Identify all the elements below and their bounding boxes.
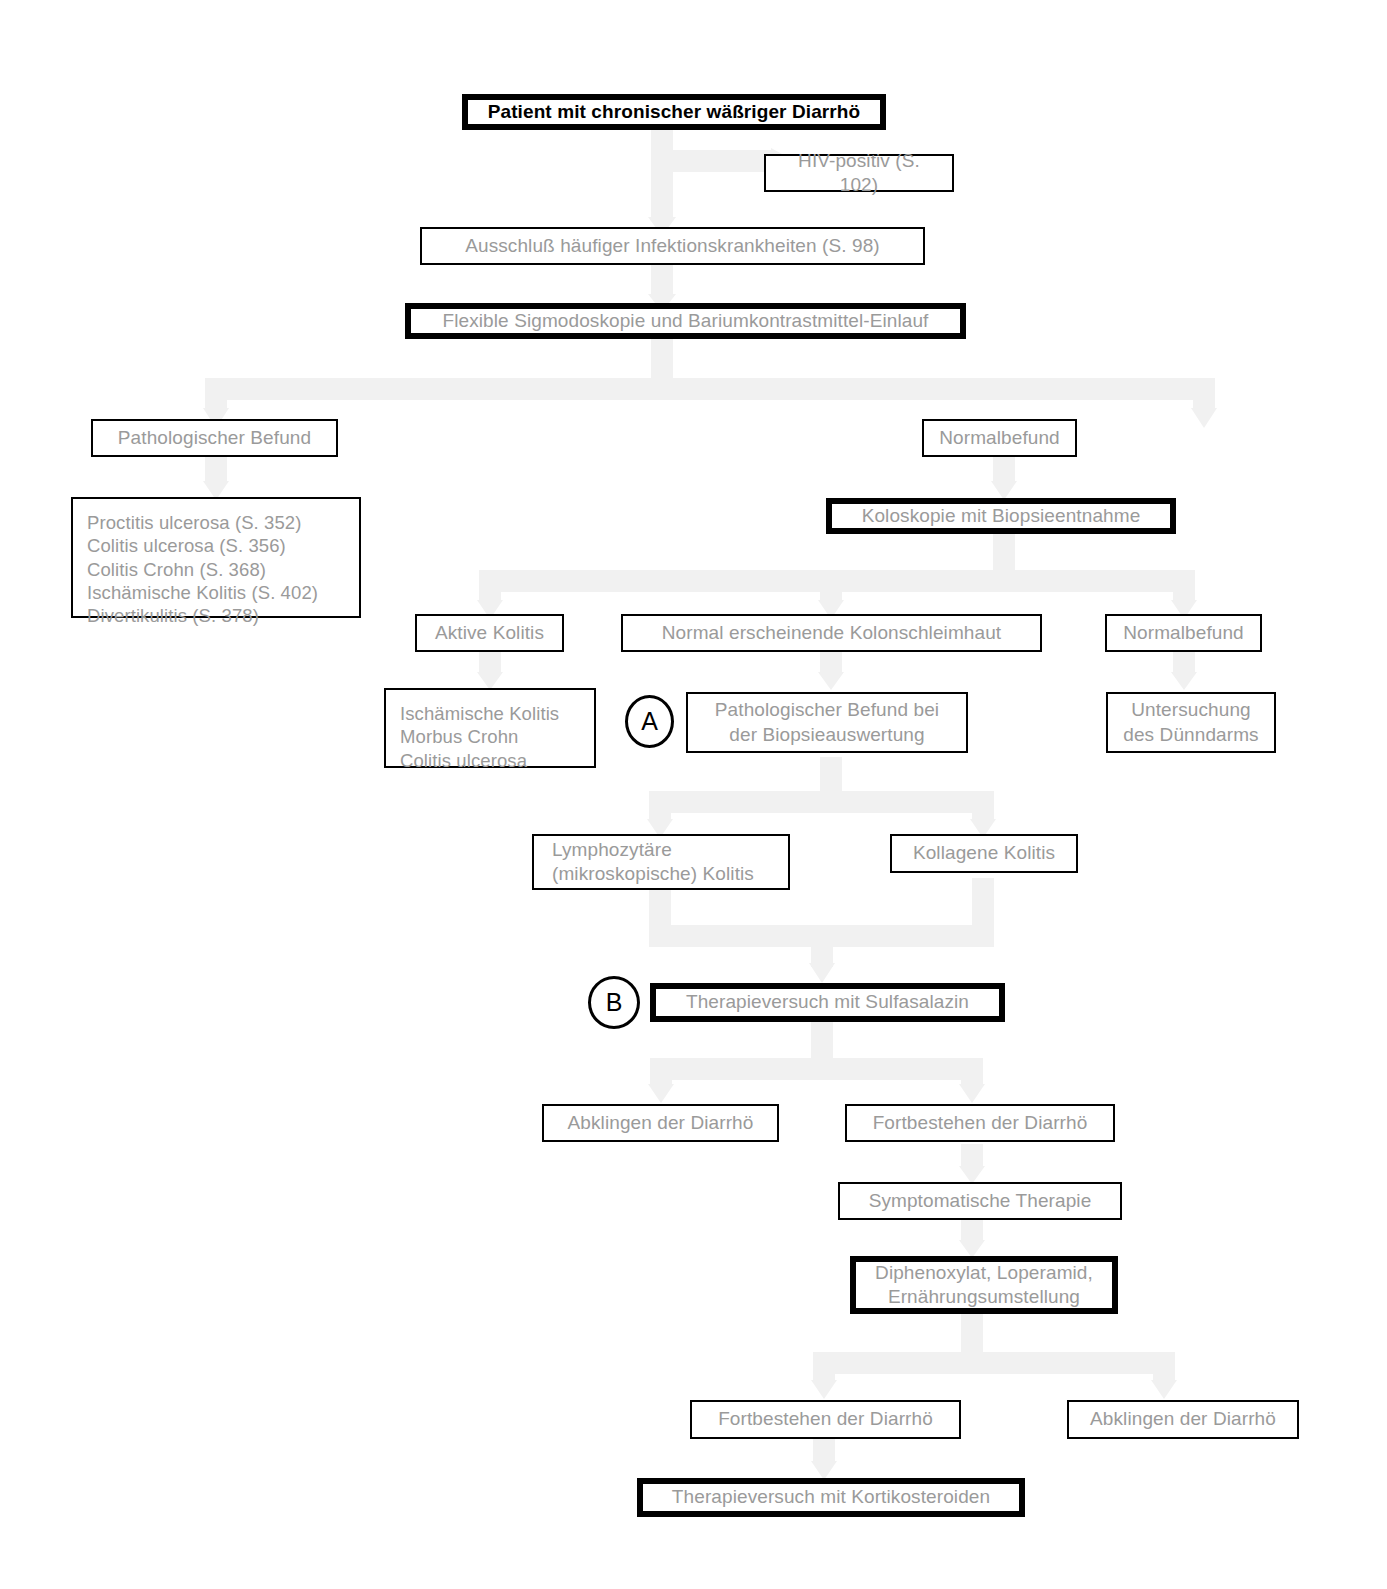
- arrowhead-fortbestehen-1: [959, 1084, 985, 1103]
- marker-a-label: A: [641, 709, 658, 734]
- node-flexible-sigmodoskopie[interactable]: Flexible Sigmodoskopie und Bariumkontras…: [405, 303, 966, 339]
- connector-kolo-right-drop: [1173, 570, 1195, 602]
- connector-sigmo-crossbar: [205, 378, 1215, 400]
- arrowhead-sulfasalazin: [809, 963, 835, 983]
- node-therapieversuch-kortikosteroiden[interactable]: Therapieversuch mit Kortikosteroiden: [637, 1478, 1025, 1517]
- node-kolitis-liste[interactable]: Ischämische Kolitis Morbus Crohn Colitis…: [384, 688, 596, 768]
- node-diagnosen-liste[interactable]: Proctitis ulcerosa (S. 352) Colitis ulce…: [71, 497, 361, 618]
- connector-diphe-right-drop: [1153, 1352, 1175, 1382]
- node-symptomatische-label: Symptomatische Therapie: [869, 1189, 1092, 1213]
- node-fortbestehen-1-label: Fortbestehen der Diarrhö: [873, 1111, 1088, 1135]
- connector-sulfa-right-drop: [961, 1058, 983, 1086]
- connector-patient-down: [651, 127, 673, 167]
- connector-kolo-down: [993, 530, 1015, 578]
- node-patient[interactable]: Patient mit chronischer wäßriger Diarrhö: [462, 94, 886, 130]
- connector-sigmo-down: [651, 337, 673, 385]
- connector-ausschluss-to-sigmo: [651, 265, 673, 297]
- connector-sulfa-crossbar: [650, 1058, 983, 1080]
- node-hiv-positiv[interactable]: HIV-positiv (S. 102): [764, 154, 954, 192]
- connector-to-hiv: [651, 150, 771, 172]
- flowchart-canvas: Patient mit chronischer wäßriger Diarrhö…: [0, 0, 1387, 1589]
- marker-a[interactable]: A: [625, 695, 674, 748]
- node-lymphozytaere-label: Lymphozytäre (mikroskopische) Kolitis: [552, 838, 754, 887]
- arrowhead-normalbefund-1: [1191, 408, 1217, 428]
- connector-kolo-mid-drop: [820, 570, 842, 602]
- node-normalbefund-2-label: Normalbefund: [1123, 621, 1244, 645]
- connector-diphe-down: [961, 1314, 983, 1362]
- node-patho-biopsie-label: Pathologischer Befund bei der Biopsieaus…: [715, 698, 939, 747]
- node-aktive-kolitis[interactable]: Aktive Kolitis: [415, 614, 564, 652]
- node-normalbefund-1[interactable]: Normalbefund: [922, 419, 1077, 457]
- node-ausschluss-label: Ausschluß häufiger Infektionskrankheiten…: [465, 234, 880, 258]
- connector-sulfa-left-drop: [650, 1058, 672, 1086]
- marker-b[interactable]: B: [588, 976, 640, 1029]
- connector-fort1-to-symptom: [961, 1144, 983, 1168]
- node-kortikosteroide-label: Therapieversuch mit Kortikosteroiden: [672, 1485, 990, 1509]
- node-abklingen-diarrhoe-1[interactable]: Abklingen der Diarrhö: [542, 1104, 779, 1142]
- arrowhead-abklingen-1: [648, 1084, 674, 1103]
- node-normalbefund-1-label: Normalbefund: [939, 426, 1060, 450]
- node-aktive-kolitis-label: Aktive Kolitis: [435, 621, 544, 645]
- connector-symptom-to-diphe: [961, 1220, 983, 1242]
- arrowhead-fortbestehen-2: [811, 1380, 837, 1399]
- node-symptomatische-therapie[interactable]: Symptomatische Therapie: [838, 1182, 1122, 1220]
- node-sigmodoskopie-label: Flexible Sigmodoskopie und Bariumkontras…: [442, 309, 928, 333]
- node-diphenoxylat-label: Diphenoxylat, Loperamid, Ernährungsumste…: [875, 1261, 1093, 1310]
- node-abklingen-1-label: Abklingen der Diarrhö: [568, 1111, 754, 1135]
- node-kolitis-liste-label: Ischämische Kolitis Morbus Crohn Colitis…: [400, 702, 559, 772]
- node-diphenoxylat-loperamid[interactable]: Diphenoxylat, Loperamid, Ernährungsumste…: [850, 1256, 1118, 1314]
- connector-kolo-crossbar: [479, 570, 1195, 592]
- connector-join-crossbar: [649, 925, 994, 947]
- node-koloskopie-label: Koloskopie mit Biopsieentnahme: [862, 504, 1141, 528]
- arrowhead-duenndarm: [1171, 672, 1197, 690]
- node-normal-kolonschleimhaut[interactable]: Normal erscheinende Kolonschleimhaut: [621, 614, 1042, 652]
- marker-b-label: B: [606, 990, 623, 1015]
- node-lymphozytaere-kolitis[interactable]: Lymphozytäre (mikroskopische) Kolitis: [532, 834, 790, 890]
- node-fortbestehen-2-label: Fortbestehen der Diarrhö: [718, 1407, 933, 1431]
- node-pathologischer-befund-label: Pathologischer Befund: [118, 426, 311, 450]
- node-kollagene-label: Kollagene Kolitis: [913, 841, 1055, 865]
- node-koloskopie-biopsie[interactable]: Koloskopie mit Biopsieentnahme: [826, 498, 1176, 534]
- connector-biopsie-left-drop: [649, 791, 671, 821]
- node-normalbefund-2[interactable]: Normalbefund: [1105, 614, 1262, 652]
- node-patient-label: Patient mit chronischer wäßriger Diarrhö: [488, 100, 860, 124]
- connector-biopsie-right-drop: [972, 791, 994, 821]
- connector-join-to-sulfa: [811, 925, 833, 967]
- node-pathologischer-befund-biopsie[interactable]: Pathologischer Befund bei der Biopsieaus…: [686, 692, 968, 753]
- node-normal-kolonschleimhaut-label: Normal erscheinende Kolonschleimhaut: [662, 621, 1001, 645]
- connector-fort2-to-kortiko: [813, 1439, 835, 1463]
- node-therapieversuch-sulfasalazin[interactable]: Therapieversuch mit Sulfasalazin: [650, 983, 1005, 1022]
- arrowhead-patho-biopsie: [818, 672, 844, 690]
- node-untersuchung-duenndarm-label: Untersuchung des Dünndarms: [1123, 698, 1258, 747]
- node-hiv-positiv-label: HIV-positiv (S. 102): [780, 149, 938, 198]
- connector-sigmo-right-drop: [1193, 378, 1215, 410]
- node-untersuchung-duenndarm[interactable]: Untersuchung des Dünndarms: [1106, 692, 1276, 753]
- node-abklingen-2-label: Abklingen der Diarrhö: [1090, 1407, 1276, 1431]
- connector-lympho-down: [649, 889, 671, 937]
- node-fortbestehen-diarrhoe-1[interactable]: Fortbestehen der Diarrhö: [845, 1104, 1115, 1142]
- node-diagnosen-liste-label: Proctitis ulcerosa (S. 352) Colitis ulce…: [87, 511, 318, 627]
- connector-sigmo-left-drop: [205, 378, 227, 410]
- connector-biopsie-crossbar: [649, 791, 994, 813]
- connector-diphe-left-drop: [813, 1352, 835, 1382]
- node-abklingen-diarrhoe-2[interactable]: Abklingen der Diarrhö: [1067, 1400, 1299, 1439]
- connector-sulfa-down: [811, 1022, 833, 1066]
- connector-patho-to-list: [205, 455, 227, 483]
- node-kollagene-kolitis[interactable]: Kollagene Kolitis: [890, 834, 1078, 873]
- connector-kolo-left-drop: [479, 570, 501, 602]
- connector-patient-to-ausschluss: [651, 167, 673, 217]
- node-sulfasalazin-label: Therapieversuch mit Sulfasalazin: [686, 990, 969, 1014]
- node-ausschluss-infektionskrankheiten[interactable]: Ausschluß häufiger Infektionskrankheiten…: [420, 227, 925, 265]
- connector-normal1-to-kolo: [993, 455, 1015, 483]
- connector-kollagene-down: [972, 878, 994, 937]
- node-pathologischer-befund[interactable]: Pathologischer Befund: [91, 419, 338, 457]
- connector-diphe-crossbar: [813, 1352, 1175, 1374]
- connector-biopsie-down: [820, 757, 842, 799]
- arrowhead-abklingen-2: [1151, 1380, 1177, 1399]
- node-fortbestehen-diarrhoe-2[interactable]: Fortbestehen der Diarrhö: [690, 1400, 961, 1439]
